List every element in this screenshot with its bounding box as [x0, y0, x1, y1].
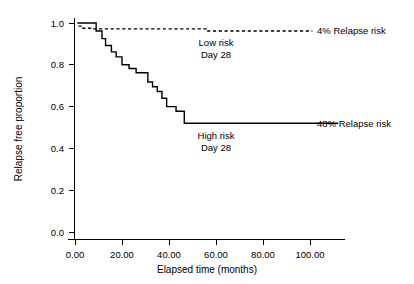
y-tick-label: 0.4 [51, 143, 64, 154]
kaplan-meier-chart: 0.00.20.40.60.81.0 0.0020.0040.0060.0080… [0, 0, 414, 284]
y-tick-label: 0.0 [51, 227, 64, 238]
high-risk-group-label: High risk [198, 130, 235, 141]
x-tick-label-group: 0.0020.0040.0060.0080.00100.00 [66, 249, 325, 260]
series-curve-low-risk [79, 26, 313, 31]
y-tick-label-group: 0.00.20.40.60.81.0 [51, 18, 64, 238]
y-tick-label: 1.0 [51, 18, 64, 29]
x-axis-title: Elapsed time (months) [157, 264, 257, 275]
low-risk-relapse-label: 4% Relapse risk [317, 25, 386, 36]
x-tick-label: 80.00 [251, 249, 275, 260]
x-tick-group [75, 240, 310, 246]
chart-canvas: 0.00.20.40.60.81.0 0.0020.0040.0060.0080… [0, 0, 414, 284]
y-tick-group [69, 23, 75, 232]
x-tick-label: 0.00 [66, 249, 85, 260]
y-axis-title: Relapse free proportion [13, 77, 24, 182]
high-risk-day-label: Day 28 [201, 142, 231, 153]
y-tick-label: 0.6 [51, 101, 64, 112]
y-tick-label: 0.2 [51, 185, 64, 196]
x-tick-label: 60.00 [204, 249, 228, 260]
x-tick-label: 40.00 [157, 249, 181, 260]
low-risk-day-label: Day 28 [201, 49, 231, 60]
high-risk-relapse-label: 48% Relapse risk [317, 118, 391, 129]
annotation-group: 4% Relapse riskLow riskDay 2848% Relapse… [198, 25, 392, 152]
x-tick-label: 100.00 [295, 249, 324, 260]
x-tick-label: 20.00 [110, 249, 134, 260]
y-tick-label: 0.8 [51, 59, 64, 70]
low-risk-group-label: Low risk [199, 37, 234, 48]
